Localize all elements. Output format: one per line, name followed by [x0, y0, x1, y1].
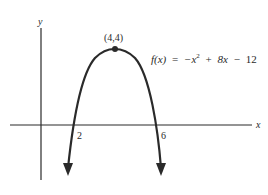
x-tick-2: 2: [77, 131, 82, 141]
vertex-point: [112, 46, 118, 52]
equation-term1: −x: [184, 53, 196, 65]
equation-term3: 12: [246, 53, 257, 65]
equation-fx: f(x): [151, 53, 166, 65]
arrow-down-left-icon: [63, 163, 73, 176]
equation-minus: −: [234, 53, 240, 65]
equation-plus: +: [206, 53, 212, 65]
y-axis-label: y: [38, 17, 42, 27]
equation-exponent: 2: [196, 52, 200, 60]
arrow-down-right-icon: [156, 163, 166, 176]
parabola-chart: [0, 0, 268, 195]
parabola-curve: [68, 49, 161, 168]
function-equation: f(x) = −x2 + 8x − 12: [151, 53, 257, 65]
x-tick-6: 6: [161, 131, 166, 141]
equation-term2: 8x: [218, 53, 228, 65]
vertex-label: (4,4): [104, 33, 123, 43]
x-axis-label: x: [256, 120, 260, 130]
equation-equals: =: [172, 53, 178, 65]
